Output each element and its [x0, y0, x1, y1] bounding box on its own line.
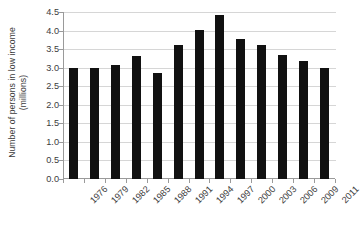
y-axis-tick-label: 0.5: [35, 155, 59, 165]
y-axis-title-line-1: Number of persons in low income: [7, 27, 17, 158]
y-axis-tick-label: 4.0: [35, 26, 59, 36]
x-axis-tick-label: 2009: [319, 184, 341, 206]
bar: [299, 61, 308, 179]
x-axis-tick-mark: [272, 179, 273, 183]
y-axis-tick-label: 3.0: [35, 63, 59, 73]
x-axis-tick-mark: [335, 179, 336, 183]
x-axis-tick-label: 2011: [339, 184, 360, 205]
y-axis-tick-label: 1.0: [35, 137, 59, 147]
bar: [320, 68, 329, 179]
y-axis-tick-label: 3.5: [35, 44, 59, 54]
x-axis-tick-label: 1997: [235, 184, 257, 206]
bar: [69, 68, 78, 179]
y-axis-tick-label: 2.5: [35, 81, 59, 91]
bar: [278, 55, 287, 179]
x-axis-tick-label: 1988: [172, 184, 194, 206]
y-axis-title-line-2: (millions): [17, 27, 28, 158]
x-axis-tick-mark: [63, 179, 64, 183]
x-axis-tick-mark: [126, 179, 127, 183]
y-axis-title: Number of persons in low income (million…: [0, 0, 34, 185]
x-axis-tick-label: 1979: [109, 184, 131, 206]
x-axis-tick-mark: [168, 179, 169, 183]
bar: [111, 65, 120, 179]
bar: [236, 39, 245, 179]
x-axis-tick-mark: [105, 179, 106, 183]
x-axis-tick-mark: [293, 179, 294, 183]
x-axis-tick-label: 1976: [88, 184, 110, 206]
x-axis-tick-mark: [314, 179, 315, 183]
x-axis-tick-mark: [209, 179, 210, 183]
x-axis-tick-label: 2000: [256, 184, 278, 206]
y-axis-tick-label: 1.5: [35, 118, 59, 128]
x-axis-tick-label: 1982: [130, 184, 152, 206]
x-axis-tick-labels: 1976197919821985198819911994199720002003…: [63, 184, 343, 224]
bar: [195, 30, 204, 179]
y-axis-tick-label: 0.0: [35, 174, 59, 184]
bar: [132, 56, 141, 179]
x-axis-tick-label: 1994: [214, 184, 236, 206]
bar: [215, 15, 224, 179]
x-axis-tick-mark: [251, 179, 252, 183]
y-axis-tick-labels: 0.00.51.01.52.02.53.03.54.04.5: [33, 12, 59, 179]
y-axis-tick-label: 2.0: [35, 100, 59, 110]
bar: [90, 68, 99, 179]
x-axis-tick-mark: [84, 179, 85, 183]
x-axis-tick-marks: [63, 179, 335, 183]
bar: [153, 73, 162, 180]
y-axis-tick-label: 4.5: [35, 7, 59, 17]
x-axis-tick-label: 1985: [151, 184, 173, 206]
x-axis-tick-label: 1991: [193, 184, 215, 206]
bar: [174, 45, 183, 179]
x-axis-tick-mark: [230, 179, 231, 183]
x-axis-tick-mark: [189, 179, 190, 183]
x-axis-tick-mark: [147, 179, 148, 183]
bar: [257, 45, 266, 179]
x-axis-tick-label: 2006: [298, 184, 320, 206]
x-axis-tick-label: 2003: [277, 184, 299, 206]
bar-series: [63, 12, 335, 179]
